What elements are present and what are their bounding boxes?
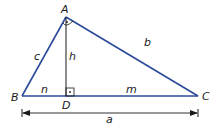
side-label-h: h <box>69 50 76 63</box>
side-label-n: n <box>41 83 48 96</box>
side-label-m: m <box>126 83 137 96</box>
triangle-diagram: A B C D c b h n m a <box>0 0 221 125</box>
side-label-a: a <box>106 113 113 125</box>
right-angle-arc-a <box>63 21 73 25</box>
right-angle-dot-a <box>66 21 68 23</box>
side-label-c: c <box>34 50 40 63</box>
side-label-b: b <box>144 36 151 49</box>
right-angle-dot-d <box>69 91 71 93</box>
vertex-label-a: A <box>60 3 69 16</box>
vertex-label-c: C <box>202 90 210 103</box>
vertex-label-b: B <box>11 91 19 104</box>
vertex-label-d: D <box>62 99 70 112</box>
